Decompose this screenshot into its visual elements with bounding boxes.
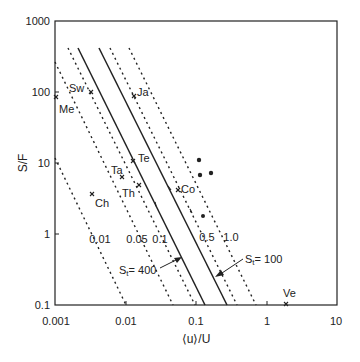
label-0-5: 0.5 (199, 231, 214, 243)
st400-prefix: S (119, 264, 126, 276)
x-tick-1: 1 (264, 315, 270, 327)
x-axis-label: ⟨u⟩/U (182, 332, 211, 346)
svg-text:St= 400: St= 400 (119, 264, 156, 278)
label-co: Co (181, 183, 195, 195)
label-th: Th (122, 187, 135, 199)
marker-ch (90, 192, 94, 196)
x-tick-0-1: 0.1 (188, 315, 203, 327)
y-tick-1: 1 (44, 228, 50, 240)
line-0-01 (55, 158, 126, 305)
label-0-05: 0.05 (126, 233, 147, 245)
y-tick-0-1: 0.1 (35, 299, 50, 311)
dot-point (201, 214, 205, 218)
svg-text:St= 100: St= 100 (245, 253, 282, 267)
dot-point (197, 158, 201, 162)
label-sw: Sw (69, 82, 84, 94)
st100-prefix: S (245, 253, 252, 265)
label-1-0: 1.0 (223, 231, 238, 243)
marker-co (176, 188, 180, 192)
chart-svg: 1000 100 10 1 0.1 0.001 0.01 0.1 1 10 ⟨u… (0, 0, 360, 362)
dot-markers (197, 158, 213, 218)
dot-point (198, 173, 202, 177)
x-tick-0-01: 0.01 (115, 315, 136, 327)
y-tick-1000: 1000 (26, 15, 50, 27)
y-tick-100: 100 (32, 86, 50, 98)
st400-value: = 400 (129, 264, 157, 276)
label-ch: Ch (95, 197, 109, 209)
dot-point (209, 171, 213, 175)
label-0-01: 0.01 (89, 233, 110, 245)
label-ja: Ja (137, 86, 150, 98)
label-me: Me (59, 103, 74, 115)
label-ve: Ve (283, 287, 296, 299)
label-ta: Ta (111, 164, 124, 176)
marker-ja (132, 94, 136, 98)
st100-value: = 100 (255, 253, 283, 265)
arrow-line (219, 259, 243, 275)
x-tick-0-001: 0.001 (42, 315, 70, 327)
marker-th (137, 183, 141, 187)
label-te: Te (138, 152, 150, 164)
y-tick-10: 10 (38, 157, 50, 169)
plot-frame (55, 21, 337, 305)
x-tick-10: 10 (330, 315, 342, 327)
st-100-annotation: St= 100 (215, 253, 282, 277)
x-markers (54, 90, 288, 306)
label-0-1: 0.1 (152, 233, 167, 245)
y-axis-label: S/F (16, 154, 30, 173)
